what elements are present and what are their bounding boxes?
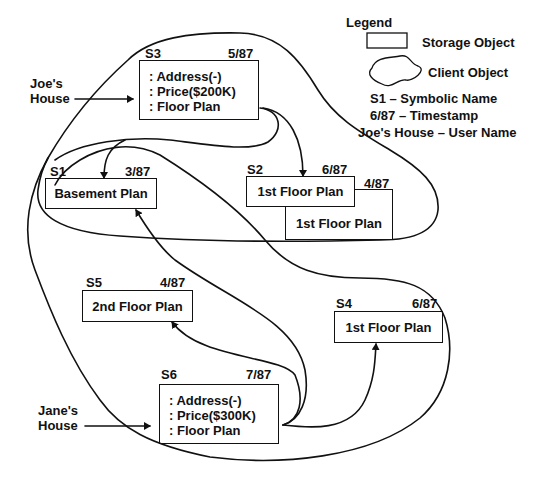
s6-symbolic-name: S6 [161,368,177,381]
storage-object-s3: : Address(-) : Price($200K) : Floor Plan [139,60,259,120]
s5-label: 2nd Floor Plan [92,299,182,314]
legend-user-name: Joe's House – User Name [358,126,516,139]
s2-timestamp: 6/87 [322,163,347,176]
s3-symbolic-name: S3 [145,47,161,60]
storage-object-s2: 1st Floor Plan [246,176,355,207]
s1-symbolic-name: S1 [50,165,66,178]
legend-client-object-label: Client Object [428,66,508,79]
legend-client-object-icon [370,56,422,86]
s2-old-label: 1st Floor Plan [296,216,382,231]
legend-symbolic-name: S1 – Symbolic Name [370,92,497,105]
s1-timestamp: 3/87 [125,165,150,178]
s6-field-floor-plan: : Floor Plan [169,423,256,438]
joes-house-label-line2: House [30,92,70,105]
legend-timestamp: 6/87 – Timestamp [370,109,478,122]
legend-storage-object-label: Storage Object [422,36,514,49]
storage-object-s5: 2nd Floor Plan [82,290,193,322]
storage-object-s1: Basement Plan [45,178,157,209]
s1-label: Basement Plan [54,186,147,201]
storage-object-s4: 1st Floor Plan [334,311,443,343]
s3-timestamp: 5/87 [228,47,253,60]
janes-house-label-line2: House [38,419,78,432]
janes-house-label-line1: Jane's [38,404,78,417]
s5-timestamp: 4/87 [160,276,185,289]
s2-symbolic-name: S2 [247,163,263,176]
s3-field-address: : Address(-) [149,69,236,84]
joes-house-label-line1: Joe's [30,77,63,90]
s5-symbolic-name: S5 [86,276,102,289]
s6-field-price: : Price($300K) [169,408,256,423]
legend-title: Legend [346,16,392,29]
s4-label: 1st Floor Plan [346,320,432,335]
s4-timestamp: 6/87 [412,297,437,310]
s3-field-price: : Price($200K) [149,84,236,99]
s3-field-floor-plan: : Floor Plan [149,99,236,114]
s6-timestamp: 7/87 [246,368,271,381]
s6-field-address: : Address(-) [169,393,256,408]
s2-label: 1st Floor Plan [258,184,344,199]
storage-object-s6: : Address(-) : Price($300K) : Floor Plan [159,384,279,444]
legend-storage-object-icon [367,33,407,48]
s4-symbolic-name: S4 [336,297,352,310]
